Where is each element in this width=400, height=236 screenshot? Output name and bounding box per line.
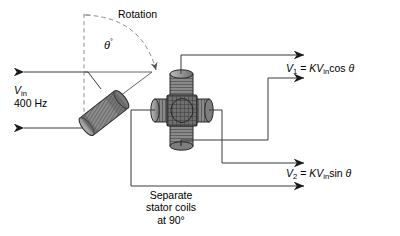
input-frequency-label: 400 Hz: [14, 97, 47, 109]
v2-subscript: 2: [293, 172, 297, 181]
theta-degree-sign: °: [110, 37, 113, 46]
wire-bottom-coil-to-v2: [222, 140, 304, 163]
stator-coil-assembly: [151, 70, 213, 150]
v1-function: cos: [329, 62, 345, 74]
v2-angle: θ: [346, 167, 352, 179]
v1-symbol: V: [286, 62, 293, 74]
output-v1-equation: V1 = KVincos θ: [286, 62, 354, 75]
vin-symbol: V: [14, 84, 21, 96]
rotor-coil: [77, 88, 132, 138]
rotation-label: Rotation: [118, 8, 157, 20]
v1-subscript: 1: [293, 67, 297, 76]
callout-line-2: stator coils: [131, 201, 211, 213]
v2-equals: =: [300, 167, 306, 179]
rotor-pointer: [120, 72, 152, 96]
v1-equals: =: [300, 62, 306, 74]
v2-symbol: V: [286, 167, 293, 179]
figure-canvas: Rotation θ° Vin 400 Hz V1 = KVincos θ V2…: [0, 0, 400, 236]
input-voltage-label: Vin 400 Hz: [14, 84, 47, 109]
output-v2-equation: V2 = KVinsin θ: [286, 167, 351, 180]
v2-function: sin: [329, 167, 342, 179]
v1-angle: θ: [348, 62, 354, 74]
v2-source-subscript: in: [323, 172, 329, 181]
rotation-arc-dashed: [86, 15, 156, 70]
vin-subscript: in: [21, 89, 27, 98]
v1-source-subscript: in: [323, 67, 329, 76]
theta-angle-label: θ°: [104, 38, 113, 52]
stator-coil-bottom: [170, 124, 193, 150]
callout-line-3: at 90°: [131, 214, 211, 226]
stator-core-bore: [171, 99, 193, 123]
callout-line-1: Separate: [131, 189, 211, 201]
wire-right-coil-to-v1: [209, 78, 304, 140]
stator-coils-callout: Separate stator coils at 90°: [131, 189, 211, 226]
